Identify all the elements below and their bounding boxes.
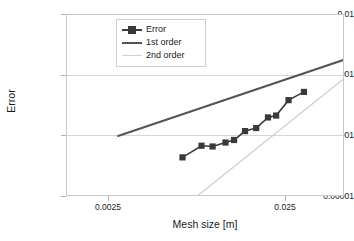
error-data-point bbox=[231, 137, 237, 143]
error-data-point bbox=[179, 154, 185, 160]
legend-item-2nd-order[interactable]: 2nd order bbox=[121, 49, 201, 62]
error-data-point bbox=[285, 97, 291, 103]
error-data-point bbox=[273, 112, 279, 118]
legend-label-2nd-order: 2nd order bbox=[146, 50, 185, 61]
chart-container: 0.01 0.001 0.0001 0.00001 0.0025 0.025 M… bbox=[0, 0, 354, 241]
x-tick-mark-0 bbox=[108, 196, 109, 201]
error-data-point bbox=[253, 125, 259, 131]
legend-label-1st-order: 1st order bbox=[146, 37, 182, 48]
error-data-point bbox=[242, 128, 248, 134]
error-data-point bbox=[301, 89, 307, 95]
first-order-line bbox=[117, 59, 344, 136]
error-data-point bbox=[222, 139, 228, 145]
x-tick-label-0: 0.0025 bbox=[78, 203, 138, 212]
x-tick-mark-1 bbox=[285, 196, 286, 201]
x-tick-label-1: 0.025 bbox=[258, 203, 312, 212]
legend-swatch-error-icon bbox=[121, 24, 143, 35]
error-series-markers bbox=[179, 89, 307, 161]
error-data-point bbox=[265, 114, 271, 120]
legend-label-error: Error bbox=[146, 24, 166, 35]
legend-swatch-1st-order-icon bbox=[121, 37, 143, 48]
error-data-point bbox=[210, 143, 216, 149]
error-data-point bbox=[198, 143, 204, 149]
legend-item-error[interactable]: Error bbox=[121, 23, 201, 36]
x-axis-title: Mesh size [m] bbox=[66, 218, 344, 230]
second-order-line bbox=[196, 78, 344, 196]
legend: Error 1st order 2nd order bbox=[116, 19, 206, 67]
y-tick-mark-3 bbox=[61, 196, 66, 197]
second-order-line-group bbox=[196, 78, 344, 196]
first-order-line-group bbox=[117, 59, 344, 136]
error-series-group bbox=[179, 89, 307, 161]
legend-item-1st-order[interactable]: 1st order bbox=[121, 36, 201, 49]
y-axis-title: Error bbox=[5, 58, 17, 144]
legend-swatch-2nd-order-icon bbox=[121, 50, 143, 61]
